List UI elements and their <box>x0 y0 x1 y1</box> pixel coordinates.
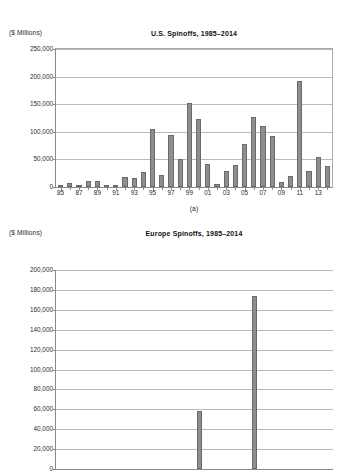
x-tick-mark <box>125 187 126 190</box>
bar <box>159 175 164 187</box>
x-tick-mark <box>309 187 310 190</box>
bar <box>197 411 202 469</box>
x-tick-label: 93 <box>131 190 138 196</box>
x-tick-label: 97 <box>167 190 174 196</box>
x-tick-label: 85 <box>57 190 64 196</box>
x-tick-mark <box>327 187 328 190</box>
bar <box>150 129 155 187</box>
y-tick-label: 200,000 <box>30 73 53 79</box>
x-tick-mark <box>291 187 292 190</box>
bar <box>316 157 321 187</box>
bar <box>251 117 256 187</box>
bar <box>242 144 247 187</box>
x-tick-mark <box>180 187 181 190</box>
x-tick-label: 09 <box>278 190 285 196</box>
x-tick-mark <box>70 187 71 190</box>
y-tick-label: 0 <box>49 466 53 472</box>
y-tick-label: 40,000 <box>33 426 53 432</box>
bar <box>141 172 146 187</box>
x-tick-label: 05 <box>241 190 248 196</box>
x-tick-label: 95 <box>149 190 156 196</box>
bar <box>132 178 137 187</box>
x-tick-mark <box>272 187 273 190</box>
y-tick-label: 200,000 <box>30 267 53 273</box>
chart-title-us: U.S. Spinoffs, 1985–2014 <box>55 30 333 37</box>
bar <box>270 136 275 187</box>
x-tick-mark <box>88 187 89 190</box>
x-tick-label: 87 <box>75 190 82 196</box>
bar <box>260 126 265 187</box>
y-tick-label: 150,000 <box>30 101 53 107</box>
y-tick-mark <box>53 187 56 188</box>
x-tick-label: 13 <box>315 190 322 196</box>
y-tick-label: 80,000 <box>33 386 53 392</box>
chart-us-spinoffs: ($ Millions) U.S. Spinoffs, 1985–2014 05… <box>0 0 349 222</box>
y-tick-label: 100,000 <box>30 366 53 372</box>
bar <box>288 176 293 187</box>
y-tick-label: 120,000 <box>30 346 53 352</box>
plot-area-us: 050,000100,000150,000200,000250,000 8587… <box>55 48 333 188</box>
bar <box>196 119 201 187</box>
y-axis-unit-label: ($ Millions) <box>9 229 42 236</box>
y-tick-label: 180,000 <box>30 287 53 293</box>
y-tick-label: 100,000 <box>30 129 53 135</box>
x-tick-label: 91 <box>112 190 119 196</box>
y-tick-label: 160,000 <box>30 307 53 313</box>
bar <box>178 159 183 187</box>
x-tick-label: 03 <box>223 190 230 196</box>
chart-europe-spinoffs: ($ Millions) Europe Spinoffs, 1985–2014 … <box>0 228 349 370</box>
y-tick-mark <box>53 469 56 470</box>
chart-title-europe: Europe Spinoffs, 1985–2014 <box>55 230 333 237</box>
y-tick-label: 20,000 <box>33 446 53 452</box>
y-tick-label: 60,000 <box>33 406 53 412</box>
x-tick-mark <box>217 187 218 190</box>
y-tick-label: 0 <box>49 184 53 190</box>
bar <box>224 171 229 187</box>
bar-series-us <box>56 49 332 187</box>
bar <box>233 165 238 187</box>
x-tick-label: 11 <box>296 190 303 196</box>
bar-series-europe <box>56 270 333 469</box>
bar <box>168 135 173 187</box>
bar <box>187 103 192 187</box>
y-tick-label: 140,000 <box>30 326 53 332</box>
plot-area-europe: 020,00040,00060,00080,000100,000120,0001… <box>55 270 333 470</box>
x-tick-mark <box>254 187 255 190</box>
x-tick-mark <box>199 187 200 190</box>
bar <box>325 166 330 187</box>
bar <box>122 177 127 187</box>
x-tick-mark <box>143 187 144 190</box>
y-tick-label: 50,000 <box>33 156 53 162</box>
bar <box>252 296 257 469</box>
x-tick-label: 89 <box>94 190 101 196</box>
x-tick-label: 07 <box>259 190 266 196</box>
panel-caption-a: (a) <box>190 205 198 212</box>
x-tick-label: 01 <box>204 190 211 196</box>
x-tick-mark <box>107 187 108 190</box>
bar <box>306 171 311 187</box>
x-tick-label: 99 <box>186 190 193 196</box>
y-axis-unit-label: ($ Millions) <box>9 29 42 36</box>
y-tick-label: 250,000 <box>30 46 53 52</box>
bar <box>297 81 302 187</box>
x-tick-mark <box>162 187 163 190</box>
bar <box>205 164 210 187</box>
x-tick-mark <box>235 187 236 190</box>
